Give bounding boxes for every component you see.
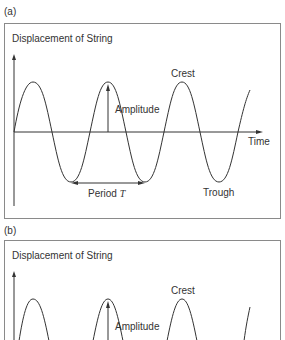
crest-label: Crest <box>171 285 195 296</box>
panel-b-title: Displacement of String <box>12 250 113 261</box>
amplitude-arrow-icon <box>106 84 110 91</box>
wave-diagram-a <box>5 24 281 219</box>
amplitude-label: Amplitude <box>115 104 159 115</box>
panel-b-label: (b) <box>4 225 16 236</box>
panel-a-label: (a) <box>4 6 16 17</box>
period-text: Period <box>88 188 117 199</box>
period-label: Period T <box>88 188 125 199</box>
panel-b-frame: Displacement of String Crest Amplitude <box>4 240 281 340</box>
amplitude-arrow-icon <box>106 301 110 308</box>
time-axis-arrow-icon <box>256 130 263 134</box>
sine-wave <box>19 299 250 340</box>
amplitude-label: Amplitude <box>115 321 159 332</box>
panel-a-title: Displacement of String <box>12 33 113 44</box>
y-axis-arrow-icon <box>12 54 16 60</box>
panel-a-frame: Displacement of String Crest Amplitude T… <box>4 23 281 219</box>
y-axis-arrow-icon <box>12 271 16 277</box>
period-symbol: T <box>120 188 126 199</box>
time-label: Time <box>248 136 270 147</box>
trough-label: Trough <box>203 187 234 198</box>
crest-label: Crest <box>171 68 195 79</box>
